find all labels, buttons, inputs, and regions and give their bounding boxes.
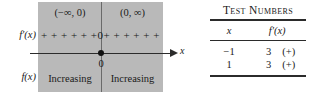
table-bottom-rule (210, 75, 306, 77)
test-numbers-title: Test Numbers (210, 3, 306, 19)
column-header-derivative: f′(x) (248, 21, 306, 40)
table-row: −1 3(+) (210, 45, 306, 58)
derivative-number: 3 (259, 58, 271, 71)
behavior-label-left: Increasing (40, 72, 100, 85)
interval-label-left: (−∞, 0) (40, 6, 100, 19)
critical-point-label: 0 (94, 58, 108, 70)
sign-sequence-right: + + + + + + (104, 29, 160, 41)
cell-derivative-value: 3(+) (248, 45, 306, 58)
cell-x-value: −1 (210, 45, 248, 58)
test-numbers-body: −1 3(+) 1 3(+) (210, 45, 306, 71)
number-line-arrow-icon (170, 49, 178, 57)
table-header-row: x f′(x) (210, 21, 306, 40)
row-label-function: f(x) (2, 71, 36, 83)
table-row: 1 3(+) (210, 58, 306, 71)
critical-point-dot-icon (98, 50, 104, 56)
row-label-derivative: f′(x) (2, 29, 36, 41)
sign-chart-figure: (−∞, 0) (0, ∞) f′(x) + + + + + +0+ + + +… (0, 0, 190, 98)
derivative-sign-row: + + + + + +0+ + + + + + (38, 28, 163, 42)
derivative-sign: (+) (271, 45, 295, 58)
derivative-sign: (+) (271, 58, 295, 71)
behavior-label-right: Increasing (103, 72, 162, 85)
sign-sequence-left: + + + + + + (41, 29, 97, 41)
interval-label-right: (0, ∞) (103, 6, 162, 19)
critical-point-divider (101, 2, 102, 92)
cell-derivative-value: 3(+) (248, 58, 306, 71)
derivative-number: 3 (259, 45, 271, 58)
test-numbers-table: Test Numbers x f′(x) −1 3(+) 1 3(+) (210, 3, 306, 77)
column-header-x: x (210, 21, 248, 40)
axis-variable-label: x (180, 45, 184, 56)
cell-x-value: 1 (210, 58, 248, 71)
test-numbers-grid: x f′(x) (210, 21, 306, 40)
